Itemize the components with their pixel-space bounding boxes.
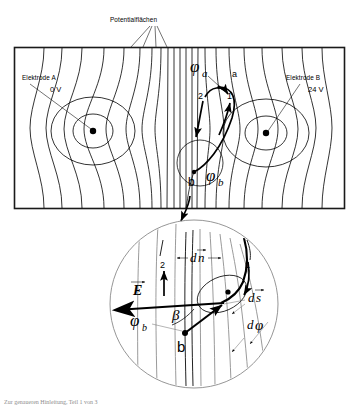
ds-label-d: d	[248, 290, 255, 305]
phi-b-subscript-main: b	[218, 176, 224, 188]
beta-label: β	[171, 307, 180, 323]
point-b-main	[192, 170, 196, 174]
electrode-b-label: Elektrode B	[286, 74, 320, 81]
electrode-a-voltage: 0 V	[50, 85, 62, 94]
dn-label-n: n	[198, 250, 205, 265]
potentialflaechen-label: Potentialflächen	[110, 16, 157, 23]
path-marker-2-detail: 2	[160, 260, 165, 270]
point-b-detail	[182, 330, 188, 336]
ds-label-s: s	[256, 290, 261, 305]
phi-b-subscript-detail: b	[142, 322, 147, 333]
figure-caption: Zur genaueren Hinleitung, Teil 1 von 3	[4, 399, 98, 405]
point-b-label-detail: b	[177, 338, 185, 355]
dphi-label-d: d	[247, 317, 254, 332]
phi-b-symbol-detail: φ	[130, 311, 139, 330]
phi-a-subscript: a	[202, 67, 208, 79]
phi-a-symbol: φ	[190, 57, 199, 76]
point-a-label: a	[232, 69, 237, 79]
electrode-a-label: Elektrode A	[22, 74, 56, 81]
path-marker-2-main: 2	[198, 91, 203, 101]
point-b-label-main: b	[188, 175, 195, 189]
figure-canvas: Potentialflächen	[0, 0, 361, 409]
electrode-b-voltage: 24 V	[308, 85, 325, 94]
dn-label-d: d	[190, 250, 197, 265]
phi-b-symbol-main: φ	[206, 166, 215, 185]
dphi-label-phi: φ	[255, 317, 263, 333]
E-vector-label: E	[132, 283, 142, 298]
